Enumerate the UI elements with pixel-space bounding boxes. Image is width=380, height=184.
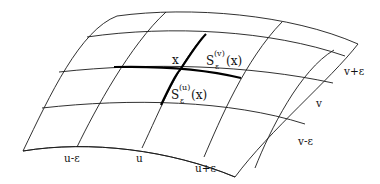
segment-u-arg: (x) <box>191 88 207 102</box>
grid-line-v-plus-eps <box>59 66 333 83</box>
v-label: v <box>315 97 322 109</box>
u-label: u <box>136 152 143 164</box>
segment-u-subscript: ε <box>180 96 184 105</box>
v-plus-eps-label: v+ε <box>343 65 364 77</box>
segment-v-base: S <box>206 54 214 68</box>
segment-v-arg: (x) <box>226 54 242 68</box>
u-minus-eps-label: u-ε <box>64 152 80 164</box>
segment-u-label: S ε (u) (x) <box>171 83 207 105</box>
surface-diagram: x S ε (v) (x) S ε (u) (x) u-ε u u+ε v+ε … <box>0 0 380 184</box>
grid-line-u-plus-eps <box>204 22 282 157</box>
segment-v-subscript: ε <box>215 62 219 71</box>
point-x-label: x <box>172 53 179 67</box>
grid-line-u-minus-eps <box>77 12 166 147</box>
grid-line-v <box>42 102 305 124</box>
segment-v-superscript: (v) <box>214 49 225 58</box>
segment-v-label: S ε (v) (x) <box>206 49 242 71</box>
segment-u-base: S <box>171 88 179 102</box>
u-plus-eps-label: u+ε <box>195 162 216 174</box>
grid-line-u2 <box>255 50 334 168</box>
segment-u-superscript: (u) <box>179 83 190 92</box>
v-minus-eps-label: v-ε <box>297 135 313 147</box>
